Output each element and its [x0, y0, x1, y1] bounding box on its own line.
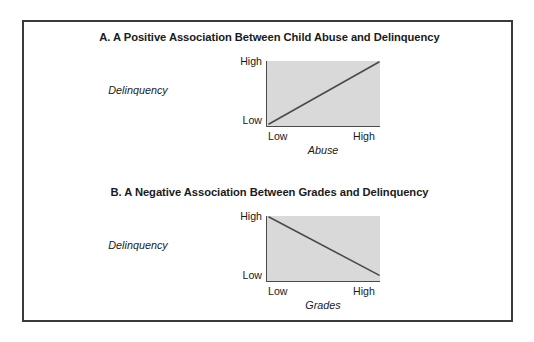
chart-a: Delinquency High Low Low High Abuse	[24, 22, 515, 152]
chart-a-x-tick-high: High	[353, 130, 375, 142]
chart-a-y-tick-high: High	[202, 55, 262, 67]
chart-a-y-tick-low: Low	[202, 114, 262, 126]
chart-b-plot-area	[266, 216, 380, 282]
chart-a-x-tick-low: Low	[268, 130, 287, 142]
chart-b-x-axis-label: Grades	[266, 299, 380, 311]
chart-b-y-axis-label: Delinquency	[76, 239, 200, 251]
chart-a-x-axis-label: Abuse	[266, 144, 380, 156]
chart-b: Delinquency High Low Low High Grades	[24, 177, 515, 307]
chart-b-y-tick-low: Low	[202, 269, 262, 281]
figure-root: A. A Positive Association Between Child …	[0, 0, 534, 342]
chart-b-x-tick-high: High	[353, 285, 375, 297]
chart-b-y-tick-high: High	[202, 210, 262, 222]
chart-a-trend-line	[267, 61, 380, 126]
chart-a-y-axis-label: Delinquency	[76, 84, 200, 96]
chart-b-x-tick-low: Low	[268, 285, 287, 297]
chart-b-trend-line	[267, 216, 380, 281]
chart-a-plot-area	[266, 61, 380, 127]
figure-frame: A. A Positive Association Between Child …	[22, 20, 513, 322]
